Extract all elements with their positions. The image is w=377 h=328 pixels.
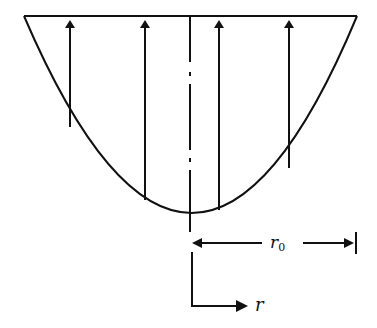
velocity-profile-diagram [0,0,377,328]
r-axis-label: r [255,294,264,315]
r-axis [191,252,248,312]
r0-label: r0 [270,232,285,254]
